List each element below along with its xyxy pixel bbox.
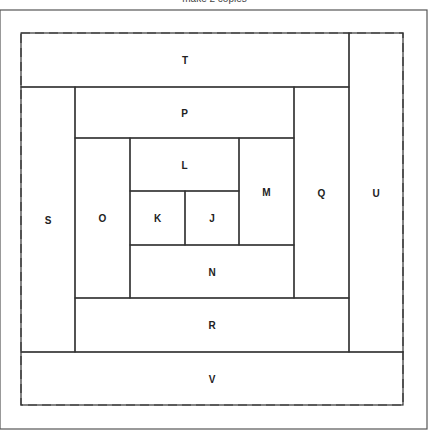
piece-label: K <box>154 213 162 224</box>
piece-label: P <box>181 108 188 119</box>
piece-label: S <box>45 215 52 226</box>
piece-label: T <box>182 55 188 66</box>
piece-k: K <box>130 191 185 245</box>
piece-o: O <box>75 138 130 298</box>
piece-q: Q <box>294 87 349 298</box>
piece-label: V <box>209 374 216 385</box>
piece-v: V <box>21 352 403 405</box>
piece-j: J <box>185 191 239 245</box>
quilt-block-diagram: TUSPQOLMKJNRV <box>0 0 429 434</box>
piece-label: R <box>208 320 216 331</box>
piece-s: S <box>21 87 75 352</box>
piece-label: J <box>209 213 215 224</box>
piece-label: L <box>181 160 187 171</box>
piece-r: R <box>75 298 349 352</box>
piece-n: N <box>130 245 294 298</box>
piece-u: U <box>349 33 403 352</box>
piece-label: N <box>208 267 215 278</box>
piece-p: P <box>75 87 294 138</box>
piece-m: M <box>239 138 294 245</box>
piece-label: O <box>99 213 107 224</box>
piece-t: T <box>21 33 349 87</box>
piece-label: U <box>372 188 379 199</box>
piece-label: M <box>262 187 270 198</box>
piece-l: L <box>130 138 239 191</box>
piece-label: Q <box>318 188 326 199</box>
